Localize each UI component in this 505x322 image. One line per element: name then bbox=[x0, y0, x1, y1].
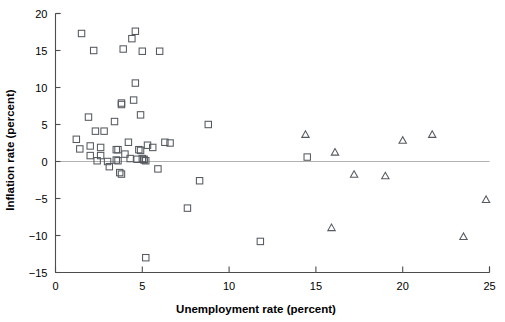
data-point-square bbox=[257, 238, 263, 244]
data-point-square bbox=[184, 205, 190, 211]
data-point-triangle bbox=[482, 196, 489, 203]
chart-canvas: 0510152025 20151050−5−10−15 Unemployment… bbox=[0, 0, 505, 322]
data-point-square bbox=[87, 143, 93, 149]
x-axis-title: Unemployment rate (percent) bbox=[176, 303, 336, 315]
square-data-points bbox=[73, 28, 310, 261]
x-tick-label: 20 bbox=[397, 280, 409, 292]
data-point-square bbox=[130, 97, 136, 103]
data-point-square bbox=[115, 146, 121, 152]
data-point-square bbox=[137, 112, 143, 118]
scatter-chart-figure: 0510152025 20151050−5−10−15 Unemployment… bbox=[0, 0, 505, 322]
data-point-square bbox=[156, 48, 162, 54]
y-tick-label: −10 bbox=[29, 230, 48, 242]
data-point-square bbox=[97, 144, 103, 150]
x-tick-label: 0 bbox=[52, 280, 58, 292]
data-point-square bbox=[78, 30, 84, 36]
x-tick-label: 25 bbox=[483, 280, 495, 292]
y-tick-label: 5 bbox=[41, 119, 47, 131]
data-point-triangle bbox=[328, 224, 335, 231]
x-tick-label: 5 bbox=[139, 280, 145, 292]
data-point-triangle bbox=[429, 131, 436, 138]
data-point-square bbox=[139, 48, 145, 54]
data-point-triangle bbox=[399, 137, 406, 144]
data-point-square bbox=[113, 146, 119, 152]
y-axis-title: Inflation rate (percent) bbox=[4, 89, 16, 211]
data-point-square bbox=[90, 47, 96, 53]
data-point-square bbox=[125, 139, 131, 145]
data-point-triangle bbox=[302, 131, 309, 138]
y-tick-label: 20 bbox=[35, 8, 47, 20]
x-axis-tick-labels: 0510152025 bbox=[52, 280, 495, 292]
y-tick-label: −15 bbox=[29, 267, 48, 279]
data-point-square bbox=[196, 178, 202, 184]
data-point-square bbox=[129, 35, 135, 41]
data-point-triangle bbox=[331, 149, 338, 156]
data-point-square bbox=[92, 128, 98, 134]
data-point-square bbox=[87, 152, 93, 158]
data-point-triangle bbox=[382, 172, 389, 179]
data-point-triangle bbox=[350, 171, 357, 178]
data-point-square bbox=[120, 46, 126, 52]
data-point-square bbox=[111, 118, 117, 124]
data-point-square bbox=[85, 114, 91, 120]
y-axis-tick-labels: 20151050−5−10−15 bbox=[29, 8, 48, 279]
data-point-square bbox=[132, 28, 138, 34]
y-tick-label: −5 bbox=[35, 193, 48, 205]
x-tick-label: 15 bbox=[310, 280, 322, 292]
data-point-triangle bbox=[460, 233, 467, 240]
y-tick-label: 15 bbox=[35, 45, 47, 57]
data-point-square bbox=[101, 128, 107, 134]
data-point-square bbox=[73, 136, 79, 142]
data-point-square bbox=[77, 146, 83, 152]
triangle-data-points bbox=[302, 131, 490, 240]
y-tick-label: 0 bbox=[41, 156, 47, 168]
data-point-square bbox=[205, 121, 211, 127]
data-point-square bbox=[143, 255, 149, 261]
x-tick-label: 10 bbox=[223, 280, 235, 292]
data-point-square bbox=[304, 154, 310, 160]
data-point-square bbox=[132, 80, 138, 86]
data-point-square bbox=[155, 166, 161, 172]
y-tick-label: 10 bbox=[35, 82, 47, 94]
